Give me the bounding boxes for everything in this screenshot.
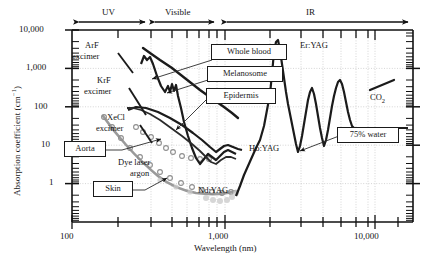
callout-epidermis: Epidermis	[206, 88, 276, 104]
label-krf-line2: excimer	[84, 87, 111, 96]
label-xecl-line1: XeCl	[107, 113, 125, 122]
callout-aorta: Aorta	[64, 141, 106, 157]
y-axis-title: Absorption coefficient (cm−1)	[12, 86, 22, 196]
band-label-uv: UV	[102, 8, 115, 17]
x-tick-label-10000: 10,000	[354, 232, 379, 241]
callout-skin: Skin	[93, 181, 133, 197]
x-axis-title: Wavelength (nm)	[194, 244, 257, 253]
label-dye-line1: Dye laser	[118, 158, 150, 167]
series-75-percent-water	[236, 40, 408, 196]
label-nd-yag: Nd:YAG	[198, 186, 228, 195]
y-tick-label-10: 10	[41, 140, 50, 149]
band-label-visible: Visible	[165, 8, 190, 17]
band-label-ir: IR	[306, 8, 315, 17]
x-tick-label-100: 100	[60, 232, 74, 241]
callout-melanosome: Melanosome	[207, 66, 283, 82]
y-tick-label-1000: 1,000	[26, 63, 46, 72]
x-tick-label-1000: 1,000	[208, 232, 228, 241]
y-axis-title-paren: )	[12, 86, 22, 89]
y-tick-label-1: 1	[49, 178, 54, 187]
callout-whole-blood: Whole blood	[211, 44, 287, 60]
label-ho-yag: Ho:YAG	[249, 144, 279, 153]
label-co2: CO2	[370, 93, 385, 102]
absorption-spectrum-figure: 10,000 1,000 100 10 1 Absorption coeffic…	[0, 0, 439, 256]
x-axis-top-ticks	[118, 30, 375, 40]
label-dye-line2: argon	[130, 169, 149, 178]
label-krf-line1: KrF	[97, 76, 111, 85]
label-arf-line1: ArF	[85, 41, 99, 50]
series-co2-segment	[370, 80, 394, 90]
y-axis-right-minor-ticks	[406, 33, 413, 220]
y-axis-title-text: Absorption coefficient (cm	[12, 96, 22, 196]
label-co2-subscript: 2	[382, 97, 385, 104]
label-co2-text: CO	[370, 92, 382, 102]
y-tick-label-100: 100	[34, 102, 48, 111]
callout-75-percent-water: 75% water	[337, 127, 399, 143]
label-arf-line2: excimer	[72, 52, 99, 61]
y-axis-title-exponent: −1	[10, 89, 17, 96]
label-xecl-line2: excimer	[96, 124, 123, 133]
label-er-yag: Er:YAG	[300, 41, 328, 50]
y-tick-label-10000: 10,000	[19, 25, 44, 34]
